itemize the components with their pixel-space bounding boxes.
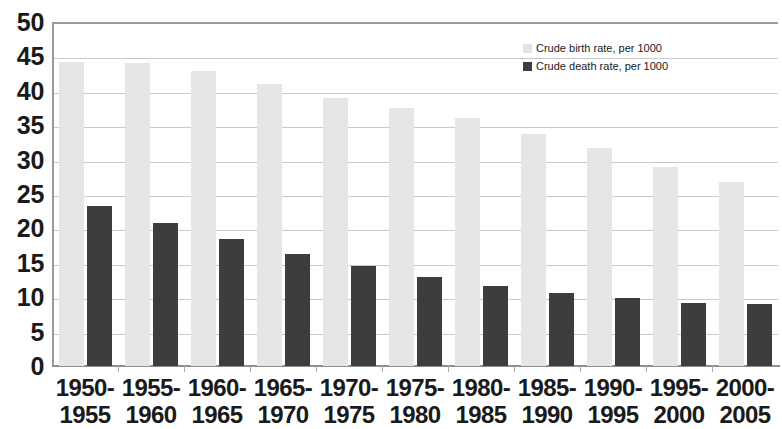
legend-item: Crude death rate, per 1000: [523, 58, 753, 74]
bar-crude-birth-rate: [257, 84, 282, 366]
bar-crude-death-rate: [747, 304, 772, 366]
bar-crude-birth-rate: [521, 134, 546, 366]
legend-label: Crude birth rate, per 1000: [536, 42, 662, 55]
bar-crude-birth-rate: [389, 108, 414, 366]
bar-group: [389, 22, 442, 366]
x-tick-label: 1980-1985: [448, 374, 514, 428]
bar-crude-death-rate: [483, 286, 508, 366]
bar-crude-death-rate: [681, 303, 706, 366]
x-tick-label-line: 1960-: [184, 374, 250, 401]
y-tick-label: 10: [0, 285, 44, 310]
x-tick-label-line: 1970-: [316, 374, 382, 401]
bar-group: [257, 22, 310, 366]
x-tick-label: 1985-1990: [514, 374, 580, 428]
x-tick-label-line: 1975: [316, 401, 382, 428]
x-tick-label: 1990-1995: [580, 374, 646, 428]
x-tick-label: 2000-2005: [712, 374, 778, 428]
x-tick-label: 1960-1965: [184, 374, 250, 428]
x-tick-label-line: 1995: [580, 401, 646, 428]
legend-swatch-icon: [523, 44, 532, 53]
y-tick-label: 50: [0, 10, 44, 35]
x-tick-label-line: 2000-: [712, 374, 778, 401]
x-tick-label-line: 1980-: [448, 374, 514, 401]
bar-crude-death-rate: [417, 277, 442, 366]
x-tick-label: 1965-1970: [250, 374, 316, 428]
y-axis: 50454035302520151050: [0, 0, 44, 429]
bar-group: [191, 22, 244, 366]
chart-legend: Crude birth rate, per 1000Crude death ra…: [523, 40, 753, 76]
x-tick-label: 1995-2000: [646, 374, 712, 428]
bar-crude-death-rate: [219, 239, 244, 366]
bar-crude-birth-rate: [125, 63, 150, 366]
bar-crude-death-rate: [285, 254, 310, 366]
bar-group: [323, 22, 376, 366]
x-tick-label-line: 1965: [184, 401, 250, 428]
bar-group: [125, 22, 178, 366]
bar-crude-death-rate: [351, 266, 376, 366]
x-tick-label-line: 1995-: [646, 374, 712, 401]
x-tick-mark: [646, 366, 647, 372]
x-tick-label-line: 1960: [118, 401, 184, 428]
x-tick-label-line: 1955: [52, 401, 118, 428]
y-tick-label: 0: [0, 354, 44, 379]
x-tick-mark: [382, 366, 383, 372]
x-tick-mark: [118, 366, 119, 372]
x-tick-label-line: 2005: [712, 401, 778, 428]
x-tick-mark: [184, 366, 185, 372]
bar-group: [59, 22, 112, 366]
x-tick-label-line: 1965-: [250, 374, 316, 401]
bar-crude-death-rate: [615, 298, 640, 366]
x-tick-label-line: 1970: [250, 401, 316, 428]
x-tick-mark: [514, 366, 515, 372]
bar-crude-birth-rate: [719, 182, 744, 366]
y-tick-label: 40: [0, 78, 44, 103]
bar-crude-birth-rate: [323, 98, 348, 366]
x-tick-label-line: 1985-: [514, 374, 580, 401]
x-tick-mark: [316, 366, 317, 372]
x-tick-label: 1955-1960: [118, 374, 184, 428]
bar-chart: 50454035302520151050 1950-19551955-19601…: [0, 0, 782, 429]
bar-crude-birth-rate: [653, 167, 678, 366]
x-tick-label-line: 2000: [646, 401, 712, 428]
y-tick-label: 20: [0, 216, 44, 241]
bar-crude-death-rate: [153, 223, 178, 366]
x-tick-mark: [448, 366, 449, 372]
y-tick-label: 25: [0, 182, 44, 207]
x-tick-label-line: 1955-: [118, 374, 184, 401]
legend-label: Crude death rate, per 1000: [536, 60, 668, 73]
x-tick-label-line: 1980: [382, 401, 448, 428]
y-tick-label: 30: [0, 147, 44, 172]
x-tick-mark: [580, 366, 581, 372]
y-tick-label: 15: [0, 250, 44, 275]
x-tick-label: 1975-1980: [382, 374, 448, 428]
bar-group: [455, 22, 508, 366]
x-tick-mark: [250, 366, 251, 372]
x-tick-label-line: 1950-: [52, 374, 118, 401]
x-tick-label-line: 1975-: [382, 374, 448, 401]
x-tick-label: 1970-1975: [316, 374, 382, 428]
x-tick-label-line: 1990-: [580, 374, 646, 401]
bar-crude-death-rate: [549, 293, 574, 366]
x-tick-label-line: 1985: [448, 401, 514, 428]
legend-swatch-icon: [523, 62, 532, 71]
bar-crude-birth-rate: [587, 148, 612, 366]
x-axis: 1950-19551955-19601960-19651965-19701970…: [52, 374, 778, 429]
bar-crude-birth-rate: [59, 62, 84, 366]
legend-item: Crude birth rate, per 1000: [523, 40, 753, 56]
y-tick-label: 5: [0, 319, 44, 344]
x-tick-label: 1950-1955: [52, 374, 118, 428]
bar-crude-birth-rate: [455, 118, 480, 366]
y-tick-label: 35: [0, 113, 44, 138]
y-tick-label: 45: [0, 44, 44, 69]
bar-crude-death-rate: [87, 206, 112, 366]
x-tick-mark: [712, 366, 713, 372]
bar-crude-birth-rate: [191, 71, 216, 366]
x-tick-label-line: 1990: [514, 401, 580, 428]
